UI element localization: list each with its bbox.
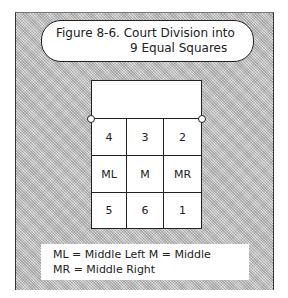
figure-title-box: Figure 8-6. Court Division into 9 Equal … bbox=[41, 20, 254, 62]
figure-title-line1: Figure 8-6. Court Division into bbox=[56, 26, 235, 41]
zone-2: 2 bbox=[164, 119, 201, 156]
zone-4: 4 bbox=[92, 119, 127, 156]
opponent-court-half bbox=[92, 81, 201, 118]
zone-middle: M bbox=[127, 156, 164, 193]
zone-5: 5 bbox=[92, 193, 127, 228]
zone-6: 6 bbox=[127, 193, 164, 228]
legend-box: ML = Middle Left M = Middle MR = Middle … bbox=[41, 244, 249, 280]
zone-middle-right: MR bbox=[164, 156, 201, 193]
legend-line2: MR = Middle Right bbox=[53, 262, 155, 277]
zone-1: 1 bbox=[164, 193, 201, 228]
zone-middle-left: ML bbox=[92, 156, 127, 193]
legend-line1: ML = Middle Left M = Middle bbox=[53, 247, 211, 262]
figure-title-line2: 9 Equal Squares bbox=[130, 41, 227, 56]
court-zone-grid: 4 3 2 ML M MR 5 6 1 bbox=[92, 119, 201, 228]
zone-3: 3 bbox=[127, 119, 164, 156]
volleyball-court: 4 3 2 ML M MR 5 6 1 bbox=[91, 80, 202, 229]
